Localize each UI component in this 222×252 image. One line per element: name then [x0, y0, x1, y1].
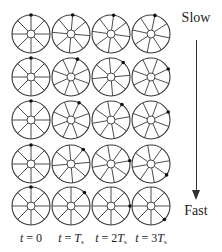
wheel-spoke	[95, 153, 107, 162]
wheel-spoke	[115, 35, 130, 37]
wheel-spoke	[112, 15, 114, 30]
wheel-spoke	[155, 78, 169, 83]
wheel-spoke	[69, 145, 70, 160]
wheel-spoke	[108, 38, 110, 53]
marker-dot	[29, 185, 33, 189]
wheel-spoke	[34, 167, 45, 178]
wheel-spoke	[18, 21, 29, 32]
wheel-spoke	[71, 15, 72, 30]
wheel-spoke	[133, 114, 147, 119]
wheel-spoke	[92, 77, 107, 78]
wheel-hub	[67, 160, 75, 168]
wheel-spoke	[92, 121, 107, 124]
marker-dot	[83, 191, 87, 195]
wheel-spoke	[99, 80, 109, 91]
wheel-hub	[27, 73, 35, 81]
wheel-spoke	[74, 149, 84, 160]
wheel-hub	[107, 202, 115, 210]
wheel-spoke	[138, 209, 149, 220]
wheel	[132, 101, 170, 139]
wheel-spoke	[74, 209, 85, 220]
wheel-spoke	[138, 193, 149, 204]
wheel-spoke	[18, 80, 29, 91]
wheel-spoke	[135, 153, 147, 162]
time-label: t = 0	[20, 231, 42, 246]
wheel-spoke	[92, 31, 107, 33]
wheel-spoke	[135, 36, 148, 44]
wheel-spoke	[152, 102, 157, 116]
wheel-spoke	[155, 35, 170, 38]
wheel-spoke	[34, 37, 45, 48]
wheel-spoke	[155, 112, 169, 118]
wheel-spoke	[63, 60, 69, 74]
wheel-spoke	[71, 168, 72, 183]
wheel-spoke	[114, 193, 125, 204]
wheel-spoke	[34, 21, 45, 32]
wheel-spoke	[148, 145, 151, 160]
wheel-spoke	[18, 167, 29, 178]
wheel-spoke	[132, 30, 147, 33]
speed-label-slow: Slow	[182, 10, 211, 26]
wheel	[92, 13, 130, 53]
wheel	[12, 56, 50, 96]
wheel-rotation-diagram: t = 0t = Tst = 2Tst = 3Ts Slow Fast	[0, 0, 222, 252]
wheel-spoke	[114, 122, 126, 131]
wheel-spoke	[134, 79, 148, 85]
wheel	[52, 145, 90, 183]
wheel-spoke	[18, 37, 29, 48]
wheel-spoke	[113, 148, 122, 160]
wheel-spoke	[114, 166, 126, 175]
wheel-hub	[67, 30, 75, 38]
wheel-spoke	[132, 165, 147, 168]
wheel-spoke	[75, 162, 90, 163]
wheel-hub	[27, 160, 35, 168]
time-label: t = Ts	[58, 231, 84, 246]
wheel-spoke	[113, 104, 122, 116]
wheel-spoke	[152, 168, 155, 183]
wheel-hub	[67, 73, 75, 81]
wheel-spoke	[73, 103, 79, 117]
wheel-spoke	[96, 65, 107, 75]
wheel-hub	[27, 116, 35, 124]
wheel-spoke	[96, 36, 108, 45]
wheel-spoke	[18, 107, 29, 118]
speed-arrow-shaft	[196, 40, 197, 192]
wheel-spoke	[34, 107, 45, 118]
wheel-spoke	[75, 34, 90, 35]
marker-dot	[166, 110, 170, 114]
wheel-spoke	[69, 38, 70, 53]
wheel-spoke	[108, 145, 111, 160]
wheel-spoke	[154, 24, 167, 32]
wheel	[132, 187, 170, 225]
wheel-spoke	[143, 60, 149, 74]
wheel-spoke	[74, 22, 85, 32]
wheel-spoke	[154, 193, 165, 204]
wheel-spoke	[75, 69, 89, 75]
wheel-spoke	[74, 167, 85, 177]
wheel-spoke	[98, 209, 109, 220]
wheel	[12, 13, 50, 53]
wheel-spoke	[53, 121, 67, 126]
wheel-spoke	[34, 64, 45, 75]
wheel-spoke	[112, 168, 115, 183]
wheel-hub	[147, 73, 155, 81]
wheel	[92, 187, 132, 225]
wheel-spoke	[65, 102, 70, 116]
wheel-spoke	[153, 81, 159, 95]
wheel-spoke	[52, 32, 67, 33]
wheel-spoke	[115, 161, 130, 164]
wheel-spoke	[56, 37, 67, 47]
wheel	[52, 187, 90, 225]
wheel-spoke	[58, 209, 69, 220]
wheel-spoke	[75, 122, 89, 128]
wheel-spoke	[92, 165, 107, 168]
wheel-spoke	[114, 209, 125, 220]
wheel-spoke	[34, 80, 45, 91]
wheel-spoke	[147, 38, 150, 53]
wheel-spoke	[52, 164, 67, 165]
marker-dot	[77, 101, 81, 105]
wheel-spoke	[54, 112, 68, 118]
wheel-spoke	[75, 78, 89, 83]
wheel-hub	[27, 30, 35, 38]
marker-dot	[128, 159, 132, 163]
